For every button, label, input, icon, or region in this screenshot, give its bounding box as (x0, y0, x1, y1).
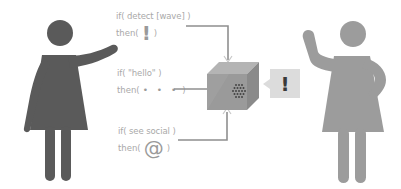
exclamation-output-icon: ! (270, 69, 300, 98)
cube-device-icon (203, 58, 263, 114)
speech-bubble: ! (270, 69, 300, 98)
woman-waving-icon (300, 14, 400, 184)
diagram-canvas: if( detect [wave] ) then( ! ) if( "hello… (0, 0, 401, 189)
